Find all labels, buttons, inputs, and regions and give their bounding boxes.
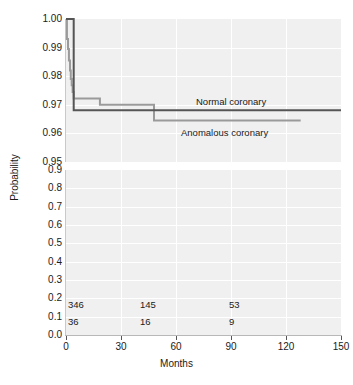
at-risk-count: 36 (68, 316, 79, 327)
gridline-horizontal (66, 298, 341, 299)
x-tick-mark (66, 336, 67, 340)
y-tick-label: 0.1 (22, 312, 62, 322)
y-tick-label: 0.7 (22, 202, 62, 212)
gridline-horizontal (66, 280, 341, 281)
x-tick-mark (341, 336, 342, 340)
x-tick-label: 150 (321, 341, 353, 353)
y-tick-label: 0.6 (22, 220, 62, 230)
y-tick-label: 1.00 (22, 14, 62, 24)
gridline-vertical (231, 170, 232, 335)
anomalous-coronary-label: Anomalous coronary (181, 127, 268, 138)
y-tick-label: 0.3 (22, 275, 62, 285)
normal-coronary-label: Normal coronary (196, 96, 266, 107)
x-tick-label: 0 (46, 341, 86, 353)
y-tick-label: 0.4 (22, 257, 62, 267)
gridline-vertical (121, 170, 122, 335)
y-tick-label: 0.98 (22, 71, 62, 81)
x-axis-tick-labels: 0 30 60 90 120 150 (0, 341, 353, 355)
gridline-horizontal (66, 262, 341, 263)
survival-curves (66, 19, 341, 162)
gridline-horizontal (66, 207, 341, 208)
at-risk-count: 346 (68, 299, 84, 310)
x-axis-title: Months (0, 358, 353, 369)
gridline-vertical (176, 170, 177, 335)
y-tick-label: 0.2 (22, 293, 62, 303)
at-risk-count: 53 (229, 299, 240, 310)
x-tick-label: 90 (211, 341, 251, 353)
y-tick-label: 0.99 (22, 43, 62, 53)
x-tick-label: 30 (101, 341, 141, 353)
at-risk-count: 145 (140, 299, 156, 310)
lower-plot-panel (66, 170, 341, 335)
x-tick-mark (286, 336, 287, 340)
gridline-horizontal (66, 317, 341, 318)
x-tick-mark (176, 336, 177, 340)
x-tick-mark (121, 336, 122, 340)
y-axis-tick-labels: 1.00 0.99 0.98 0.97 0.96 0.95 0.9 0.8 0.… (16, 0, 62, 385)
gridline-horizontal (66, 225, 341, 226)
x-tick-mark (231, 336, 232, 340)
y-tick-label: 0.97 (22, 100, 62, 110)
y-tick-label: 0.9 (22, 165, 62, 175)
survival-plot-figure: Normal coronary Anomalous coronary 1.00 … (0, 0, 353, 385)
x-tick-label: 60 (156, 341, 196, 353)
gridline-vertical (286, 170, 287, 335)
gridline-horizontal (66, 243, 341, 244)
y-axis-spine-lower (65, 170, 66, 335)
x-tick-label: 120 (266, 341, 306, 353)
y-axis-title: Probability (9, 138, 20, 218)
gridline-horizontal (66, 188, 341, 189)
at-risk-count: 9 (229, 316, 234, 327)
at-risk-count: 16 (140, 316, 151, 327)
y-tick-label: 0.96 (22, 128, 62, 138)
y-tick-label: 0.8 (22, 183, 62, 193)
y-tick-label: 0.5 (22, 238, 62, 248)
y-tick-label: 0.0 (22, 330, 62, 340)
x-axis-spine (65, 335, 342, 336)
